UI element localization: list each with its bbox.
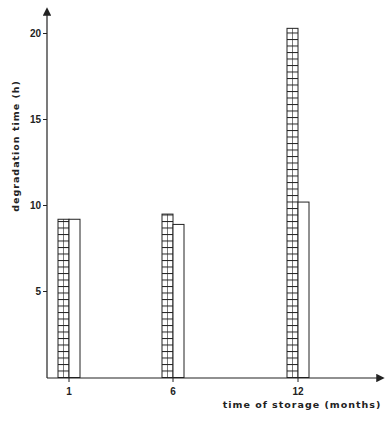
x-tick-label: 1 [66,386,72,397]
bars-group [58,28,309,377]
bar-plain-12 [298,202,309,377]
y-tick-label: 5 [35,286,41,297]
bar-plain-6 [173,224,184,377]
y-tick-label: 10 [30,200,42,211]
x-tick-label: 12 [292,386,304,397]
y-axis-label: degradation time (h) [10,80,21,212]
y-ticks: 5101520 [30,28,47,297]
x-axis-label: time of storage (months) [223,399,382,410]
bar-chart: 5101520 1612 time of storage (months) de… [0,0,392,421]
bar-plain-1 [69,219,80,377]
x-ticks: 1612 [66,378,304,397]
y-tick-label: 15 [30,114,42,125]
x-tick-label: 6 [170,386,176,397]
y-tick-label: 20 [30,28,42,39]
